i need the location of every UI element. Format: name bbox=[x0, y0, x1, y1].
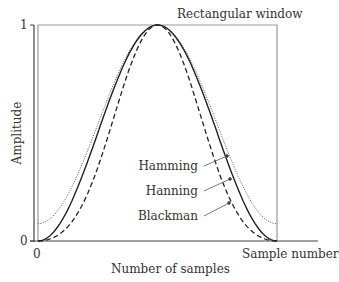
x-axis-label: Number of samples bbox=[111, 263, 230, 275]
y-axis-label: Amplitude bbox=[11, 102, 23, 165]
hanning-label: Hanning bbox=[146, 185, 198, 197]
annotation-arrows bbox=[204, 155, 231, 216]
x-axis-end-label: Sample number bbox=[242, 248, 339, 260]
x-tick-label-0: 0 bbox=[33, 248, 41, 260]
y-tick-label-0: 0 bbox=[20, 235, 28, 247]
rectangular-window-label: Rectangular window bbox=[177, 8, 303, 20]
y-tick-label-1: 1 bbox=[20, 19, 28, 31]
blackman-label: Blackman bbox=[138, 210, 198, 222]
hamming-label: Hamming bbox=[138, 160, 198, 172]
